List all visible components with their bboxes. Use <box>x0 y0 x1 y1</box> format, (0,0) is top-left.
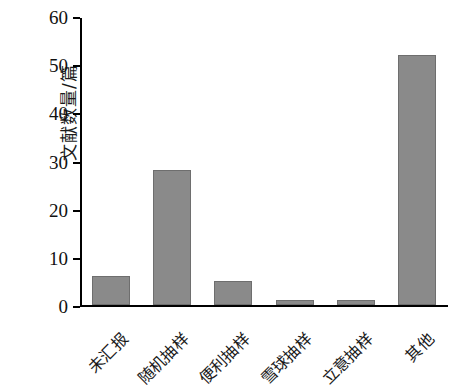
y-axis-tick-label: 10 <box>22 249 68 268</box>
plot-area: 0102030405060 未汇报随机抽样便利抽样雪球抽样立意抽样其他 <box>80 18 448 307</box>
y-axis-tick-label: 50 <box>22 56 68 75</box>
y-axis-tick-label: 20 <box>22 201 68 220</box>
bar <box>337 300 375 305</box>
y-axis-tick <box>73 258 80 260</box>
y-axis-tick-label: 60 <box>22 8 68 27</box>
y-axis-tick-label: 30 <box>22 153 68 172</box>
y-axis-tick <box>73 162 80 164</box>
bar <box>214 281 252 305</box>
y-axis-tick <box>73 65 80 67</box>
y-axis-tick <box>73 210 80 212</box>
y-axis-line <box>80 18 82 307</box>
bar <box>398 55 436 305</box>
bar-chart-figure: 文献数量/篇 0102030405060 未汇报随机抽样便利抽样雪球抽样立意抽样… <box>0 0 453 392</box>
bar <box>92 276 130 305</box>
x-axis-tick-label: 未汇报 <box>48 330 131 392</box>
y-axis-tick-label: 40 <box>22 104 68 123</box>
y-axis-tick <box>73 306 80 308</box>
y-axis-tick <box>73 113 80 115</box>
bar <box>276 300 314 305</box>
bar <box>153 170 191 305</box>
y-axis-tick-label: 0 <box>22 297 68 316</box>
x-axis-line <box>80 305 448 307</box>
y-axis-tick <box>73 17 80 19</box>
